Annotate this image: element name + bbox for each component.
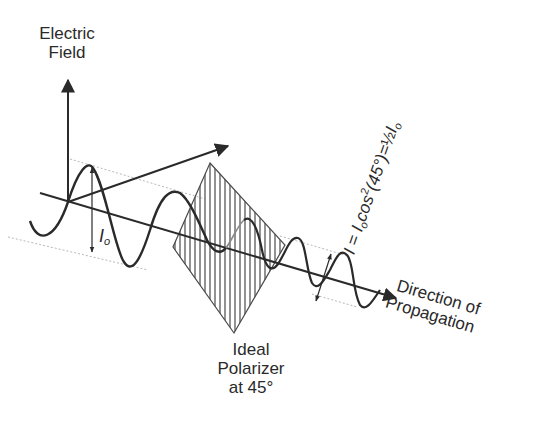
amplitude-guides	[8, 159, 357, 307]
electric-field-label-line1: Electric	[22, 24, 112, 43]
polarizer-label-line3: at 45°	[196, 378, 306, 397]
electric-field-label: Electric Field	[22, 24, 112, 62]
initial-intensity-label: Io	[99, 227, 110, 251]
polarizer-label-line2: Polarizer	[196, 359, 306, 378]
formula-cos: cos	[351, 193, 378, 224]
electric-field-label-line2: Field	[22, 43, 112, 62]
polarizer-label: Ideal Polarizer at 45°	[196, 340, 306, 397]
io-subscript: o	[104, 235, 110, 247]
polarizer-label-line1: Ideal	[196, 340, 306, 359]
